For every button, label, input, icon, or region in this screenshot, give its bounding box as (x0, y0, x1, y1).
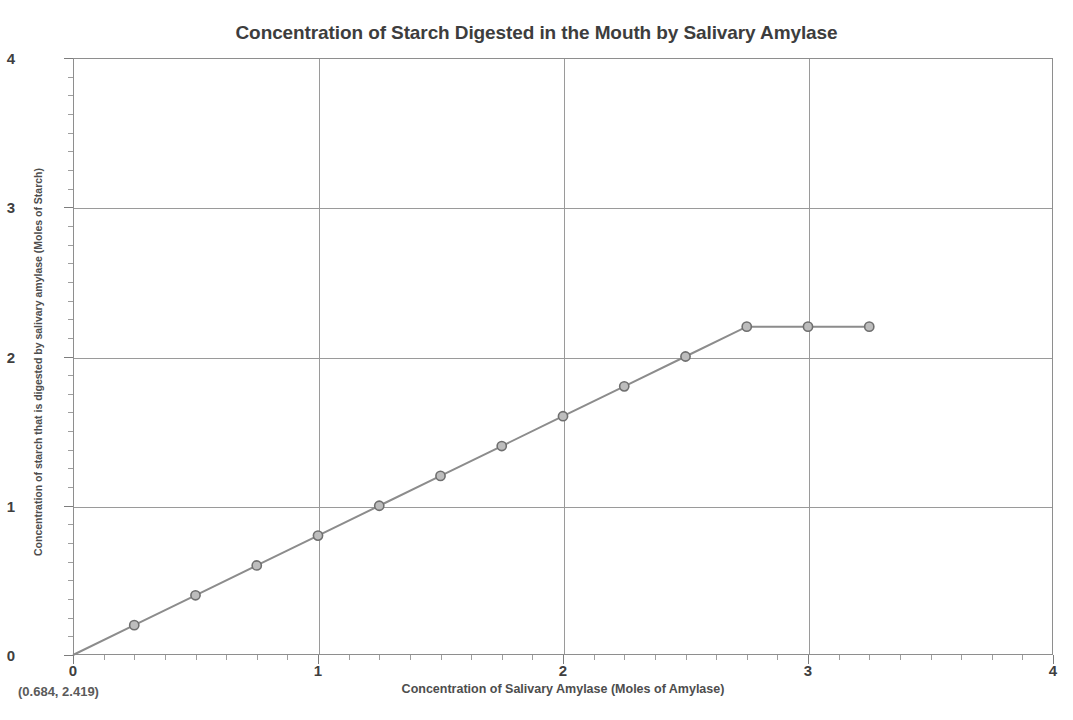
y-minor-tick (68, 226, 73, 227)
gridline-horizontal (74, 507, 1052, 508)
x-minor-tick (379, 655, 380, 660)
x-minor-tick (655, 655, 656, 660)
x-tick-label: 2 (543, 662, 583, 679)
y-minor-tick (68, 580, 73, 581)
y-minor-tick (68, 282, 73, 283)
gridline-vertical (564, 59, 565, 654)
gridline-horizontal (74, 208, 1052, 209)
x-minor-tick (502, 655, 503, 660)
y-minor-tick (68, 562, 73, 563)
y-tick-label: 3 (0, 199, 15, 216)
gridline-vertical (809, 59, 810, 654)
y-tick-mark (64, 357, 73, 358)
x-minor-tick (349, 655, 350, 660)
x-minor-tick (900, 655, 901, 660)
x-minor-tick (226, 655, 227, 660)
x-minor-tick (869, 655, 870, 660)
x-minor-tick (624, 655, 625, 660)
y-minor-tick (68, 170, 73, 171)
x-minor-tick (686, 655, 687, 660)
x-minor-tick (839, 655, 840, 660)
y-minor-tick (68, 319, 73, 320)
x-minor-tick (931, 655, 932, 660)
x-minor-tick (134, 655, 135, 660)
y-axis-label: Concentration of starch that is digested… (32, 62, 44, 662)
y-minor-tick (68, 636, 73, 637)
y-minor-tick (68, 245, 73, 246)
y-tick-mark (64, 207, 73, 208)
y-minor-tick (68, 450, 73, 451)
x-minor-tick (104, 655, 105, 660)
y-minor-tick (68, 375, 73, 376)
x-minor-tick (441, 655, 442, 660)
y-minor-tick (68, 412, 73, 413)
y-minor-tick (68, 263, 73, 264)
x-minor-tick (471, 655, 472, 660)
x-axis-label: Concentration of Salivary Amylase (Moles… (73, 682, 1053, 696)
x-tick-label: 3 (788, 662, 828, 679)
gridline-vertical (319, 59, 320, 654)
x-minor-tick (1022, 655, 1023, 660)
x-minor-tick (747, 655, 748, 660)
x-tick-label: 1 (298, 662, 338, 679)
y-minor-tick (68, 301, 73, 302)
x-minor-tick (532, 655, 533, 660)
x-minor-tick (196, 655, 197, 660)
y-minor-tick (68, 394, 73, 395)
y-minor-tick (68, 543, 73, 544)
y-minor-tick (68, 487, 73, 488)
x-minor-tick (257, 655, 258, 660)
y-minor-tick (68, 151, 73, 152)
x-minor-tick (961, 655, 962, 660)
chart-figure: Concentration of Starch Digested in the … (0, 0, 1073, 720)
y-tick-label: 2 (0, 348, 15, 365)
y-minor-tick (68, 468, 73, 469)
coordinate-annotation: (0.684, 2.419) (18, 684, 99, 699)
x-tick-label: 4 (1033, 662, 1073, 679)
y-minor-tick (68, 431, 73, 432)
y-tick-mark (64, 655, 73, 656)
y-tick-label: 4 (0, 50, 15, 67)
y-tick-mark (64, 506, 73, 507)
y-minor-tick (68, 599, 73, 600)
x-minor-tick (777, 655, 778, 660)
y-minor-tick (68, 95, 73, 96)
plot-area (73, 58, 1053, 655)
y-minor-tick (68, 114, 73, 115)
y-minor-tick (68, 189, 73, 190)
gridline-horizontal (74, 358, 1052, 359)
y-tick-label: 0 (0, 647, 15, 664)
y-minor-tick (68, 133, 73, 134)
y-minor-tick (68, 77, 73, 78)
chart-title: Concentration of Starch Digested in the … (0, 22, 1073, 44)
x-minor-tick (992, 655, 993, 660)
x-minor-tick (287, 655, 288, 660)
y-minor-tick (68, 524, 73, 525)
y-tick-label: 1 (0, 497, 15, 514)
y-tick-mark (64, 58, 73, 59)
x-minor-tick (165, 655, 166, 660)
x-minor-tick (716, 655, 717, 660)
x-minor-tick (410, 655, 411, 660)
x-tick-label: 0 (53, 662, 93, 679)
y-minor-tick (68, 338, 73, 339)
x-minor-tick (594, 655, 595, 660)
y-minor-tick (68, 618, 73, 619)
